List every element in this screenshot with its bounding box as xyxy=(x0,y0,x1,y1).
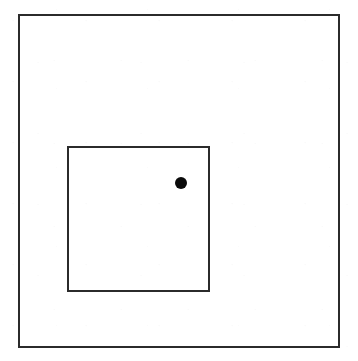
caption-strip xyxy=(0,352,358,361)
point-marker-dot xyxy=(175,177,187,189)
inner-square xyxy=(67,146,210,292)
figure-canvas xyxy=(0,0,358,361)
